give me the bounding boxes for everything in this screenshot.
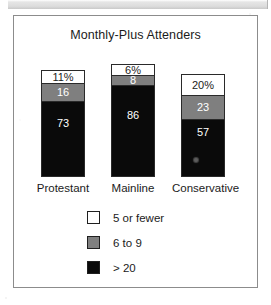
chart-legend: 5 or fewer 6 to 9 > 20	[87, 205, 237, 280]
category-label-mainline: Mainline	[102, 182, 164, 194]
legend-label: 5 or fewer	[113, 212, 164, 224]
stacked-bar: 11% 16 73	[41, 70, 85, 177]
legend-label: 6 to 9	[113, 237, 142, 249]
bar-segment-label: 16	[57, 87, 69, 98]
legend-item-6-to-9: 6 to 9	[87, 230, 237, 255]
legend-swatch-gray-icon	[87, 236, 100, 249]
scan-page-edge-strip	[8, 0, 268, 9]
bar-segment-6-to-9: 16	[42, 84, 84, 102]
bar-segment-over-20: 73	[42, 102, 84, 176]
bar-segment-label: 73	[57, 118, 69, 129]
stacked-bar: 20% 23 57	[181, 74, 225, 177]
legend-label: > 20	[113, 262, 136, 274]
bar-segment-label: 57	[197, 127, 209, 138]
chart-frame: Monthly-Plus Attenders 11% 16 73 Protest…	[13, 15, 258, 288]
stacked-bar: 6% 8 86	[111, 64, 155, 177]
bar-segment-label: 23	[197, 102, 209, 113]
bar-segment-label: 86	[127, 110, 139, 121]
bar-segment-over-20: 57	[182, 120, 224, 176]
legend-swatch-black-icon	[87, 261, 100, 274]
legend-item-over-20: > 20	[87, 255, 237, 280]
bar-segment-6-to-9: 23	[182, 96, 224, 120]
legend-item-5-or-fewer: 5 or fewer	[87, 205, 237, 230]
bar-segment-5-or-fewer: 20%	[182, 75, 224, 96]
bar-group-protestant: 11% 16 73 Protestant	[32, 70, 94, 177]
bar-group-conservative: 20% 23 57 Conservative	[172, 74, 234, 177]
chart-title: Monthly-Plus Attenders	[14, 28, 257, 42]
bar-segment-label: 8	[130, 75, 136, 86]
scan-artifact-speck	[194, 158, 198, 162]
category-label-conservative: Conservative	[172, 182, 234, 194]
bar-segment-5-or-fewer: 11%	[42, 71, 84, 84]
bar-segment-label: 20%	[192, 80, 214, 91]
bar-group-mainline: 6% 8 86 Mainline	[102, 64, 164, 177]
bar-segment-over-20: 86	[112, 86, 154, 176]
category-label-protestant: Protestant	[32, 182, 94, 194]
plot-area: 11% 16 73 Protestant 6% 8 86	[14, 42, 257, 177]
bar-segment-label: 11%	[52, 72, 73, 83]
legend-swatch-white-icon	[87, 211, 100, 224]
bar-segment-6-to-9: 8	[112, 76, 154, 86]
